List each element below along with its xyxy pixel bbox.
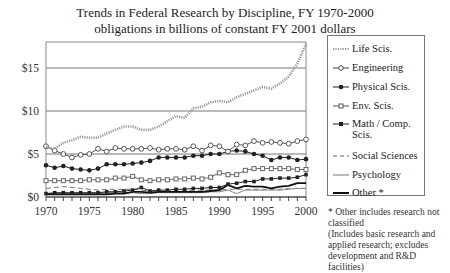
data-point bbox=[96, 178, 100, 182]
data-point bbox=[234, 148, 239, 153]
data-point bbox=[148, 189, 152, 193]
x-tick-label: 1970 bbox=[35, 205, 58, 217]
data-point bbox=[96, 146, 101, 151]
data-point bbox=[122, 162, 127, 167]
data-point bbox=[104, 162, 109, 167]
dashed-line-icon bbox=[332, 152, 350, 160]
data-point bbox=[192, 187, 196, 191]
x-tick-label: 1985 bbox=[165, 205, 188, 217]
data-point bbox=[122, 146, 127, 151]
data-point bbox=[140, 186, 144, 190]
data-point bbox=[217, 144, 222, 149]
data-point bbox=[296, 175, 300, 179]
y-tick-label: $10 bbox=[22, 105, 40, 117]
data-point bbox=[44, 163, 49, 168]
data-point bbox=[235, 173, 239, 177]
data-point bbox=[226, 182, 230, 186]
data-point bbox=[278, 140, 283, 145]
legend-item-physical-scis: Physical Scis. bbox=[332, 80, 410, 92]
data-point bbox=[139, 146, 144, 151]
plot-frame bbox=[46, 42, 306, 197]
data-point bbox=[183, 187, 187, 191]
data-point bbox=[70, 179, 74, 183]
data-point bbox=[191, 176, 195, 180]
data-point bbox=[243, 168, 247, 172]
data-point bbox=[252, 152, 257, 157]
data-point bbox=[96, 191, 100, 195]
footnote-other-note: * Other includes research not classified bbox=[328, 207, 446, 229]
data-point bbox=[156, 155, 161, 160]
data-point bbox=[244, 180, 248, 184]
data-point bbox=[243, 149, 248, 154]
data-point bbox=[304, 167, 308, 171]
data-point bbox=[217, 171, 221, 175]
data-point bbox=[122, 176, 126, 180]
y-tick-label: $15 bbox=[22, 62, 40, 74]
data-point bbox=[53, 179, 57, 183]
data-point bbox=[269, 167, 273, 171]
filled-square-marker-icon bbox=[332, 120, 350, 128]
data-point bbox=[295, 158, 300, 163]
data-point bbox=[61, 164, 66, 169]
data-point bbox=[166, 188, 170, 192]
data-point bbox=[217, 152, 222, 157]
data-point bbox=[105, 178, 109, 182]
x-tick-label: 2000 bbox=[295, 205, 318, 217]
data-point bbox=[252, 167, 256, 171]
legend-item-psychology: Psychology bbox=[332, 168, 401, 180]
y-tick-label: $0 bbox=[28, 191, 40, 203]
data-point bbox=[252, 139, 257, 144]
data-point bbox=[44, 179, 48, 183]
dotted-line-icon bbox=[332, 45, 350, 53]
data-point bbox=[226, 173, 230, 177]
data-point bbox=[87, 178, 91, 182]
data-point bbox=[295, 167, 299, 171]
data-point bbox=[183, 177, 187, 181]
data-point bbox=[286, 141, 291, 146]
data-point bbox=[174, 177, 178, 181]
data-point bbox=[278, 155, 283, 160]
data-point bbox=[278, 167, 282, 171]
data-point bbox=[261, 177, 265, 181]
filled-circle-marker-icon bbox=[332, 83, 350, 91]
thin-line-icon bbox=[332, 171, 350, 179]
data-point bbox=[53, 191, 57, 195]
data-point bbox=[79, 191, 83, 195]
data-point bbox=[165, 178, 169, 182]
data-point bbox=[278, 176, 282, 180]
data-point bbox=[113, 176, 117, 180]
data-point bbox=[209, 186, 213, 190]
data-point bbox=[304, 157, 309, 162]
y-tick-label: $5 bbox=[28, 148, 40, 160]
series-line-life-scis bbox=[46, 44, 306, 149]
x-tick-label: 1990 bbox=[208, 205, 231, 217]
data-point bbox=[70, 166, 75, 171]
data-point bbox=[148, 179, 152, 183]
legend-item-other: Other * bbox=[332, 186, 384, 198]
data-point bbox=[269, 140, 274, 145]
data-point bbox=[156, 147, 161, 152]
data-point bbox=[209, 175, 213, 179]
data-point bbox=[139, 160, 144, 165]
data-point bbox=[208, 143, 213, 148]
data-point bbox=[87, 168, 92, 173]
data-point bbox=[130, 146, 135, 151]
open-circle-marker-icon bbox=[332, 64, 350, 72]
data-point bbox=[131, 188, 135, 192]
data-point bbox=[235, 181, 239, 185]
data-point bbox=[44, 192, 48, 196]
data-point bbox=[191, 153, 196, 158]
data-point bbox=[52, 165, 57, 170]
legend: Life Scis. Engineering Physical Scis. En… bbox=[327, 35, 425, 196]
legend-item-env-scis: Env. Scis. bbox=[332, 99, 394, 111]
x-tick-label: 1975 bbox=[78, 205, 101, 217]
data-point bbox=[243, 143, 248, 148]
data-point bbox=[131, 174, 135, 178]
data-point bbox=[252, 180, 256, 184]
data-point bbox=[182, 155, 187, 160]
data-point bbox=[174, 187, 178, 191]
data-point bbox=[157, 188, 161, 192]
data-point bbox=[104, 149, 109, 154]
data-point bbox=[218, 186, 222, 190]
data-point bbox=[61, 179, 65, 183]
